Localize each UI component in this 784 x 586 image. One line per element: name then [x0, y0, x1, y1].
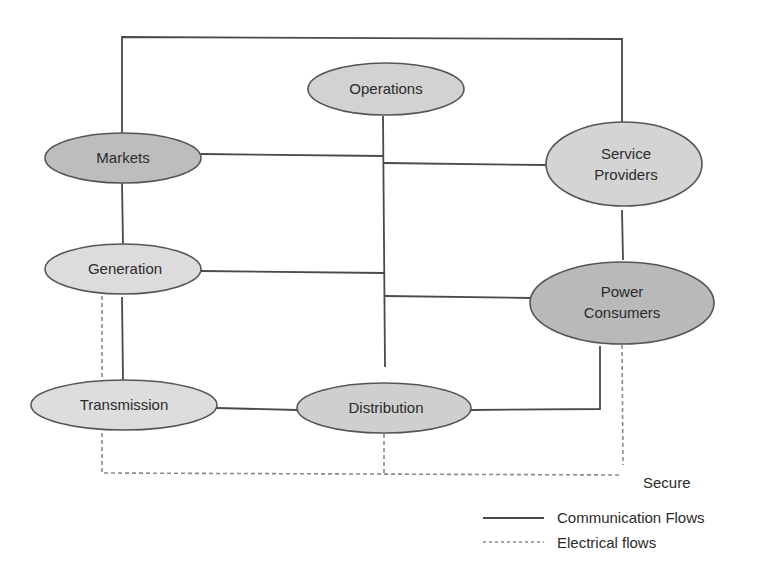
generation-transmission-line	[122, 297, 123, 380]
power-consumers-label-line1: Power	[601, 283, 644, 300]
power-consumers-ellipse	[530, 262, 714, 344]
distribution-power-line	[471, 346, 600, 410]
legend-communication-label: Communication Flows	[557, 509, 705, 526]
distribution-label: Distribution	[348, 399, 423, 416]
node-generation[interactable]: Generation	[45, 244, 201, 294]
generation-label: Generation	[88, 260, 162, 277]
node-service-providers[interactable]: Service Providers	[546, 122, 702, 206]
central-bus-line	[383, 116, 385, 367]
power-consumers-label-line2: Consumers	[584, 304, 661, 321]
legend-electrical-label: Electrical flows	[557, 534, 656, 551]
nodes: Operations Markets Service Providers Gen…	[31, 63, 714, 433]
secure-bus-line	[102, 433, 620, 475]
central-service-line	[384, 163, 546, 165]
node-power-consumers[interactable]: Power Consumers	[530, 262, 714, 344]
service-providers-label-line1: Service	[601, 145, 651, 162]
power-consumers-elec-line	[622, 345, 623, 465]
service-providers-ellipse	[546, 122, 702, 206]
central-power-line	[385, 296, 531, 298]
power-grid-diagram: Operations Markets Service Providers Gen…	[0, 0, 784, 586]
generation-central-line	[201, 271, 384, 273]
legend: Communication Flows Electrical flows	[483, 509, 705, 551]
node-markets[interactable]: Markets	[45, 133, 201, 183]
node-operations[interactable]: Operations	[308, 63, 464, 115]
service-power-line	[622, 210, 623, 260]
node-transmission[interactable]: Transmission	[31, 380, 217, 430]
transmission-distribution-line	[217, 408, 297, 410]
markets-central-line	[201, 154, 383, 156]
transmission-label: Transmission	[80, 396, 169, 413]
operations-label: Operations	[349, 80, 422, 97]
markets-label: Markets	[96, 149, 149, 166]
secure-label: Secure	[643, 474, 691, 491]
node-distribution[interactable]: Distribution	[297, 383, 471, 433]
markets-generation-line	[122, 183, 123, 244]
service-providers-label-line2: Providers	[594, 166, 657, 183]
